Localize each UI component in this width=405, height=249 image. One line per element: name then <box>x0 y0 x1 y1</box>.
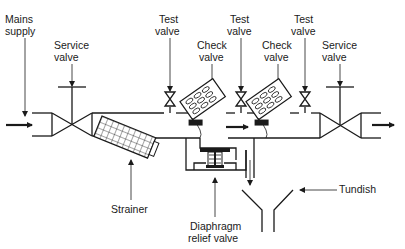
test-valve-2 <box>236 92 246 113</box>
label-check-valve-2: Check valve <box>262 39 293 63</box>
label-test-valve-2: Test valve <box>227 13 252 37</box>
svg-text:valve: valve <box>199 51 224 63</box>
svg-text:Tundish: Tundish <box>339 183 376 195</box>
svg-text:relief valve: relief valve <box>188 232 238 244</box>
tundish <box>242 190 293 232</box>
strainer <box>94 116 161 160</box>
svg-text:valve: valve <box>291 25 316 37</box>
svg-text:valve: valve <box>227 25 252 37</box>
svg-text:Service: Service <box>54 39 89 51</box>
svg-text:Strainer: Strainer <box>111 203 148 215</box>
label-test-valve-3: Test valve <box>291 13 316 37</box>
label-tundish: Tundish <box>339 183 376 195</box>
svg-text:valve: valve <box>264 51 289 63</box>
check-valve-1 <box>174 79 231 133</box>
svg-text:valve: valve <box>54 51 79 63</box>
svg-text:Test: Test <box>230 13 249 25</box>
label-check-valve-1: Check valve <box>197 39 228 63</box>
label-service-valve-right: Service valve <box>322 39 357 63</box>
label-mains-supply: Mains supply <box>5 13 36 37</box>
svg-text:Check: Check <box>262 39 293 51</box>
label-test-valve-1: Test valve <box>155 13 180 37</box>
svg-text:Test: Test <box>159 13 178 25</box>
test-valve-1 <box>165 92 175 113</box>
diaphragm-relief-valve <box>186 138 246 170</box>
discharge-pipe <box>246 138 254 185</box>
service-valve-right <box>320 87 381 138</box>
svg-text:Service: Service <box>322 39 357 51</box>
svg-text:Mains: Mains <box>5 13 33 25</box>
svg-text:Test: Test <box>294 13 313 25</box>
diagram-canvas: Mains supply Service valve Test valve Ch… <box>0 0 405 249</box>
test-valve-3 <box>300 92 310 113</box>
service-valve-left <box>32 87 92 136</box>
label-diaphragm-relief-valve: Diaphragm relief valve <box>188 220 242 244</box>
check-valve-2 <box>240 79 297 133</box>
label-strainer: Strainer <box>111 203 148 215</box>
label-service-valve-left: Service valve <box>54 39 89 63</box>
svg-text:valve: valve <box>322 51 347 63</box>
svg-text:valve: valve <box>155 25 180 37</box>
svg-text:Diaphragm: Diaphragm <box>190 220 242 232</box>
svg-text:supply: supply <box>5 25 36 37</box>
svg-text:Check: Check <box>197 39 228 51</box>
